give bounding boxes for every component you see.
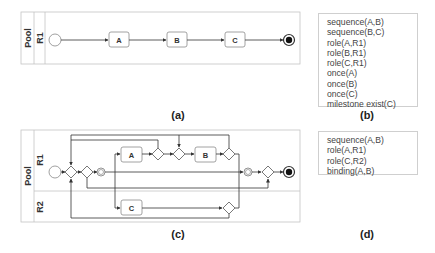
constraint-item: sequence(B,C) (327, 27, 417, 37)
pool-label-a: Pool (23, 28, 33, 48)
pool-a: Pool R1 A B C (21, 12, 300, 64)
svg-text:A: A (116, 36, 122, 45)
task-a: A (109, 32, 129, 47)
intermediate-event-icon (244, 168, 252, 176)
task-a: A (121, 147, 142, 162)
lane-label-a-r1: R1 (35, 32, 45, 44)
lane-label-c-r1: R1 (35, 154, 45, 166)
constraint-item: sequence(A,B) (327, 17, 417, 27)
svg-text:C: C (232, 36, 238, 45)
constraint-item: once(B) (327, 79, 417, 89)
constraints-panel-d: sequence(A,B) role(A,R1) role(C,R2) bind… (318, 131, 418, 175)
constraint-item: binding(A,B) (327, 166, 417, 176)
constraint-item: once(C) (327, 89, 417, 99)
svg-text:A: A (129, 151, 135, 160)
task-b: B (167, 32, 187, 47)
constraint-item: role(C,R1) (327, 58, 417, 68)
constraint-item: role(C,R2) (327, 156, 417, 166)
caption-d: (d) (360, 228, 374, 240)
intermediate-event-icon (97, 168, 105, 176)
task-b: B (195, 147, 216, 162)
caption-a: (a) (171, 109, 184, 121)
pool-c: Pool R1 R2 (21, 130, 300, 222)
lane-label-c-r2: R2 (35, 201, 45, 213)
svg-text:B: B (203, 151, 209, 160)
constraint-item: role(B,R1) (327, 48, 417, 58)
task-c: C (121, 200, 142, 215)
end-event-icon (284, 167, 295, 178)
pool-label-c: Pool (23, 166, 33, 186)
constraints-panel-b: sequence(A,B) sequence(B,C) role(A,R1) r… (318, 13, 418, 107)
caption-c: (c) (171, 228, 184, 240)
start-event-icon (49, 166, 61, 178)
end-event-icon (284, 35, 295, 46)
constraint-item: once(A) (327, 68, 417, 78)
svg-text:C: C (129, 204, 135, 213)
start-event-icon (49, 34, 61, 46)
constraint-item: role(A,R1) (327, 38, 417, 48)
svg-text:B: B (174, 36, 180, 45)
constraint-item: role(A,R1) (327, 145, 417, 155)
caption-b: (b) (360, 109, 374, 121)
constraint-item: sequence(A,B) (327, 135, 417, 145)
task-c: C (225, 32, 245, 47)
